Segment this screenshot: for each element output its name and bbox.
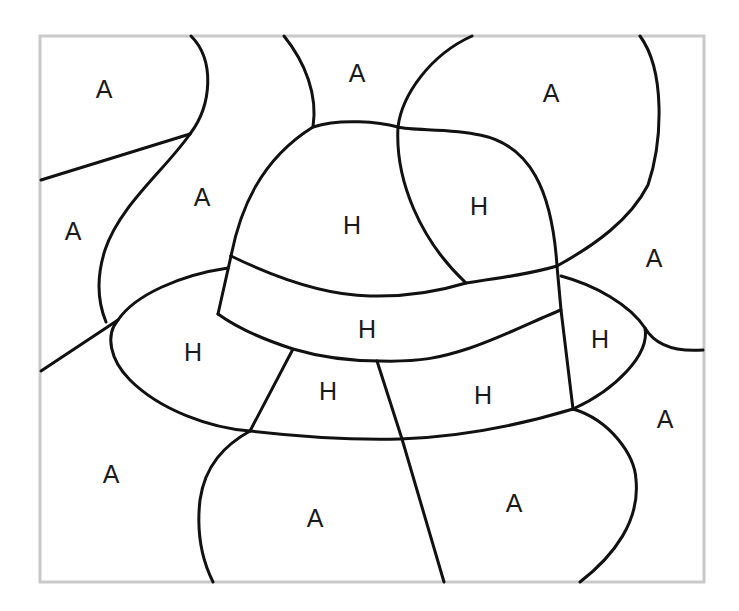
- hat-band-bottom: [218, 310, 561, 361]
- line-top-right-arc: [557, 36, 659, 266]
- hat-brim-left: [111, 268, 250, 431]
- line-art: [41, 36, 703, 582]
- region-label-hat: H: [470, 192, 488, 220]
- hat-brim-bottom: [250, 409, 573, 439]
- line-right-bump: [645, 328, 703, 350]
- region-label-background: A: [65, 217, 82, 245]
- line-left-lower-diagonal: [41, 320, 118, 371]
- hat-band-left: [218, 256, 231, 314]
- line-bottom-right-blob: [573, 409, 636, 582]
- region-label-background: A: [349, 59, 366, 87]
- line-long-diagonal: [377, 361, 444, 582]
- line-top-right-circle: [398, 36, 472, 283]
- line-topleft-blob: [190, 36, 208, 134]
- hat-band-top: [231, 256, 557, 296]
- hat-labels: H H H H H H H: [184, 192, 609, 409]
- region-label-background: A: [307, 504, 324, 532]
- region-label-background: A: [657, 405, 674, 433]
- region-label-background: A: [506, 489, 523, 517]
- region-label-hat: H: [358, 315, 376, 343]
- region-label-background: A: [96, 75, 113, 103]
- hat-brim-divider-left: [250, 349, 293, 431]
- region-label-background: A: [103, 460, 120, 488]
- line-topleft-diagonal: [41, 134, 190, 180]
- line-top-center: [284, 36, 314, 127]
- region-label-background: A: [194, 183, 211, 211]
- region-label-hat: H: [184, 338, 202, 366]
- region-label-hat: H: [474, 381, 492, 409]
- hat-crown-outline: [231, 122, 557, 266]
- region-label-background: A: [543, 79, 560, 107]
- region-label-hat: H: [319, 377, 337, 405]
- region-label-hat: H: [591, 325, 609, 353]
- page-frame: [40, 36, 704, 582]
- region-label-background: A: [646, 244, 663, 272]
- line-bottom-left-blob: [199, 431, 250, 582]
- region-label-hat: H: [343, 211, 361, 239]
- line-s-curve: [99, 134, 190, 322]
- coloring-sheet: H H H H H H H A A A A A A A A A A: [0, 0, 739, 611]
- hat-band-right: [557, 266, 573, 409]
